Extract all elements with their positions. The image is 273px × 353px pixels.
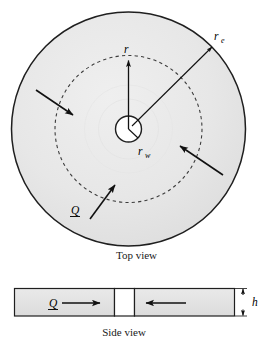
label-flow-rate-side-view: Q	[49, 297, 58, 309]
label-flow-rate-top-view: Q	[71, 204, 80, 216]
label-radius-r: r	[124, 43, 129, 55]
label-well-radius-rw: r	[138, 145, 143, 157]
side-view-group: Q h Side view	[15, 289, 259, 339]
label-outer-radius-re: r	[214, 30, 219, 42]
caption-side-view: Side view	[102, 326, 146, 338]
top-view-group: r r e r w Q Top view	[12, 12, 246, 261]
radial-flow-well-diagram: r r e r w Q Top view Q	[0, 0, 273, 353]
label-well-radius-rw-sub: w	[145, 151, 151, 160]
wellbore-gap-side-view	[115, 289, 135, 317]
label-thickness-h: h	[252, 296, 258, 308]
caption-top-view: Top view	[116, 249, 157, 261]
label-outer-radius-re-sub: e	[221, 36, 225, 45]
